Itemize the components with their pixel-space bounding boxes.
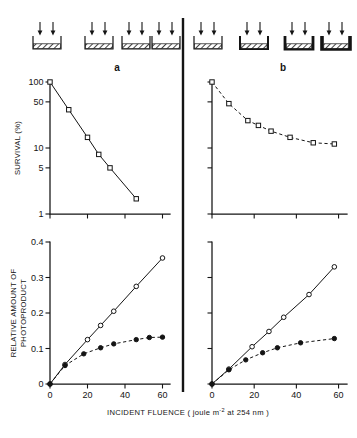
data-point: [260, 351, 264, 355]
series-photoproduct-filled: [48, 335, 165, 386]
data-point: [48, 382, 52, 386]
down-arrow-icon: [90, 22, 95, 36]
cuvette-medium: [123, 44, 150, 49]
x-axis-ticks: [50, 214, 163, 219]
cuvette-b-2: [240, 22, 268, 49]
data-point: [298, 341, 302, 345]
data-point: [244, 358, 248, 362]
data-point: [112, 342, 116, 346]
panel-letter-a: a: [114, 62, 120, 73]
data-point: [98, 323, 103, 328]
data-point: [98, 346, 102, 350]
axis-label-layer: SURVIVAL (%)RELATIVE AMOUNT OFPHOTOPRODU…: [9, 121, 269, 417]
x-tick-label: 0: [47, 390, 52, 400]
y-tick-label: 0: [38, 379, 43, 389]
chart-survival-a: 100501051: [28, 77, 170, 219]
down-arrow-icon: [327, 22, 332, 36]
down-arrow-icon: [258, 22, 263, 36]
x-axis-ticks: [212, 214, 339, 219]
cuvette-medium: [324, 44, 348, 49]
data-point: [160, 335, 164, 339]
data-point: [48, 80, 52, 84]
chart-photoproduct-a: 00.10.20.30.40204060: [31, 237, 170, 400]
down-arrow-icon: [140, 22, 145, 36]
axis-spines: [212, 82, 347, 214]
data-point: [108, 166, 112, 170]
cuvette-medium: [195, 44, 222, 49]
data-point: [134, 284, 139, 289]
down-arrow-icon: [51, 22, 56, 36]
y-axis-ticks: [208, 242, 213, 384]
photoproduct-axis-title-line1: RELATIVE AMOUNT OF: [9, 269, 18, 358]
x-tick-label: 60: [157, 390, 167, 400]
x-axis-title: INCIDENT FLUENCE ( joule m-2 at 254 nm ): [107, 407, 269, 417]
axis-spines: [50, 82, 170, 214]
down-arrow-icon: [103, 22, 108, 36]
x-tick-label: 20: [249, 390, 259, 400]
data-point: [111, 309, 116, 314]
schematic-layer: [33, 22, 350, 49]
survival-axis-title: SURVIVAL (%): [13, 121, 22, 175]
series-line: [212, 82, 334, 144]
data-point: [97, 152, 101, 156]
data-point: [134, 197, 138, 201]
cuvette-medium: [286, 44, 311, 49]
y-tick-label: 0.4: [31, 237, 44, 247]
series-line: [212, 267, 334, 384]
axis-spines: [212, 242, 347, 384]
series-line: [212, 339, 334, 384]
series-line: [50, 82, 136, 199]
panel-letter-b: b: [280, 62, 286, 73]
data-point: [227, 368, 231, 372]
series-line: [50, 337, 163, 384]
figure-canvas: ab 10050105100.10.20.30.402040600204060 …: [0, 0, 357, 438]
series-survival: [210, 80, 337, 146]
cuvette-a-2: [85, 22, 113, 49]
data-point: [82, 352, 86, 356]
x-tick-label: 40: [120, 390, 130, 400]
data-point: [332, 265, 337, 270]
cuvette-b-4: [322, 22, 350, 49]
axis-spines: [50, 242, 170, 384]
x-tick-label: 40: [291, 390, 301, 400]
down-arrow-icon: [199, 22, 204, 36]
y-tick-label: 0.1: [31, 344, 44, 354]
y-tick-label: 10: [33, 143, 43, 153]
data-point: [267, 329, 272, 334]
x-axis-ticks: 0204060: [47, 384, 167, 400]
series-survival: [48, 80, 139, 201]
data-point: [160, 256, 165, 261]
down-arrow-icon: [245, 22, 250, 36]
data-point: [67, 108, 71, 112]
data-point: [227, 101, 231, 105]
y-tick-label: 0.3: [31, 273, 44, 283]
data-point: [269, 129, 273, 133]
charts-layer: 10050105100.10.20.30.402040600204060: [28, 77, 347, 400]
cuvette-a-1: [33, 22, 61, 49]
cuvette-medium: [153, 44, 180, 49]
data-point: [288, 135, 292, 139]
data-point: [63, 363, 67, 367]
down-arrow-icon: [170, 22, 175, 36]
data-point: [256, 123, 260, 127]
cuvette-b-3: [285, 22, 313, 49]
data-point: [332, 336, 336, 340]
data-point: [275, 346, 279, 350]
x-tick-label: 60: [334, 390, 344, 400]
data-point: [311, 141, 315, 145]
cuvette-a-4: [152, 22, 180, 49]
y-tick-label: 5: [38, 163, 43, 173]
data-point: [85, 337, 90, 342]
data-point: [250, 344, 255, 349]
data-point: [332, 142, 336, 146]
y-tick-label: 50: [33, 97, 43, 107]
cuvette-medium: [86, 44, 113, 49]
data-point: [281, 315, 286, 320]
panel-letter-layer: ab: [114, 62, 286, 73]
x-tick-label: 0: [209, 390, 214, 400]
y-tick-label: 0.2: [31, 308, 44, 318]
chart-photoproduct-b: 0204060: [208, 242, 348, 400]
y-tick-label: 100: [28, 77, 43, 87]
data-point: [134, 337, 138, 341]
data-point: [210, 382, 214, 386]
